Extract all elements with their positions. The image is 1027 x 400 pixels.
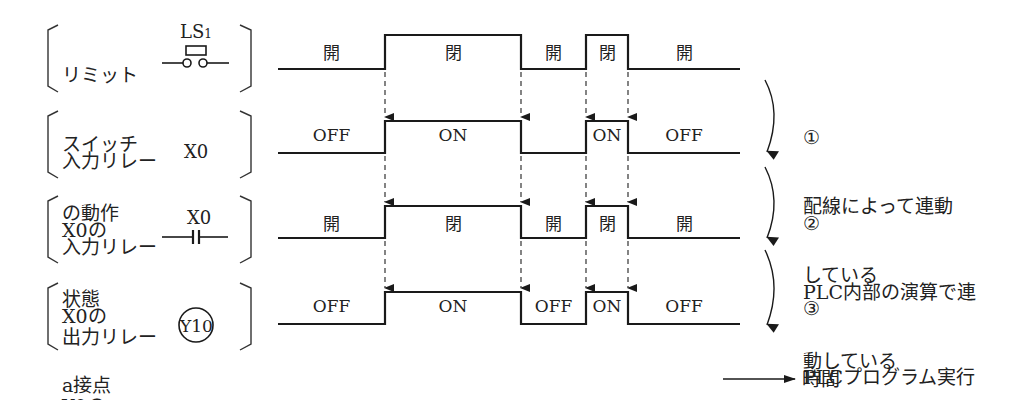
- left-brackets: [48, 25, 58, 350]
- waveform-segment-label: OFF: [313, 125, 351, 145]
- note-number: ①: [803, 126, 953, 149]
- waveform-segment-label: 開: [545, 39, 562, 64]
- waveform-segment-label: 開: [323, 210, 340, 235]
- waveform-input-relay-a-contact: [278, 206, 740, 238]
- waveform-segment-label: 開: [545, 210, 562, 235]
- transition-dashed-arrows: [385, 72, 628, 288]
- right-brackets: [240, 25, 251, 350]
- waveform-segment-label: 開: [323, 39, 340, 64]
- waveform-segment-label: 閉: [599, 39, 616, 64]
- a-contact-icon: [162, 230, 228, 244]
- waveform-segment-label: ON: [593, 125, 622, 145]
- coil-icon: [179, 308, 213, 342]
- waveform-segment-label: 開: [676, 39, 693, 64]
- waveform-segment-label: 閉: [445, 39, 462, 64]
- note-number: ②: [803, 212, 976, 235]
- waveform-segment-label: 閉: [445, 210, 462, 235]
- waveform-segment-label: OFF: [665, 296, 703, 316]
- waveform-segment-label: OFF: [313, 296, 351, 316]
- waveform-segment-label: ON: [593, 296, 622, 316]
- limit-switch-icon: [162, 46, 229, 67]
- waveforms: [278, 35, 740, 324]
- waveform-segment-label: OFF: [665, 125, 703, 145]
- waveform-segment-label: ON: [439, 296, 468, 316]
- waveform-limit-switch: [278, 35, 740, 69]
- waveform-segment-label: 開: [676, 210, 693, 235]
- waveform-segment-label: 閉: [599, 210, 616, 235]
- waveform-segment-label: OFF: [535, 296, 573, 316]
- waveform-segment-label: ON: [439, 125, 468, 145]
- curved-arrows: [765, 80, 774, 325]
- time-axis-label: 時間: [802, 368, 840, 391]
- note-number: ③: [803, 297, 975, 320]
